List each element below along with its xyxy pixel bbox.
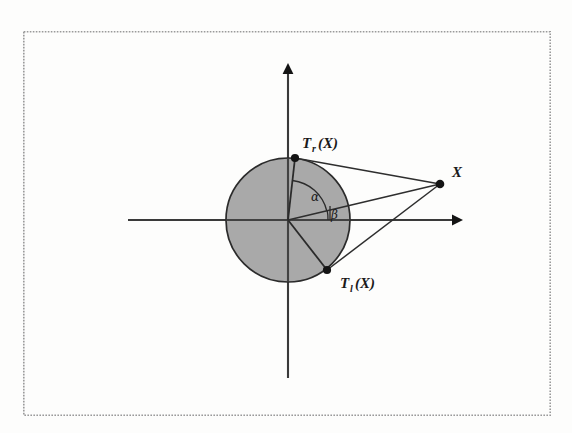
point-tangent-left-dot	[323, 266, 331, 274]
vertical-axis-arrowhead	[283, 63, 294, 74]
label-tangent-right-base: T	[302, 135, 312, 151]
label-tangent-right-subscript: r	[312, 143, 316, 154]
label-external-point-x: X	[451, 164, 463, 180]
geometry-diagram: T r (X) T l (X) X α β	[0, 0, 572, 433]
point-tangent-right-dot	[291, 154, 299, 162]
label-tangent-left-subscript: l	[350, 283, 353, 294]
label-tangent-left: T l (X)	[340, 275, 375, 294]
point-x-dot	[436, 180, 445, 189]
horizontal-axis-arrowhead	[452, 215, 463, 226]
label-angle-beta: β	[330, 208, 338, 222]
label-tangent-right-tail: (X)	[318, 135, 338, 152]
label-tangent-left-base: T	[340, 275, 350, 291]
label-angle-alpha: α	[311, 190, 319, 204]
label-tangent-left-tail: (X)	[355, 275, 375, 292]
figure-container: T r (X) T l (X) X α β	[0, 0, 572, 433]
label-tangent-right: T r (X)	[302, 135, 338, 154]
